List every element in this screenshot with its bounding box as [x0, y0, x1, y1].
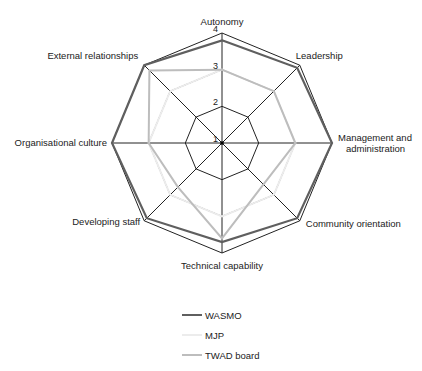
axis-label: Developing staff: [72, 216, 140, 227]
tick-label: 1: [213, 134, 218, 144]
legend-swatch-twad: [182, 354, 202, 356]
center-dot: [220, 141, 224, 145]
axis-spoke: [222, 65, 300, 143]
legend: WASMO MJP TWAD board: [182, 305, 260, 365]
axis-spoke: [144, 65, 222, 143]
legend-label: TWAD board: [205, 350, 260, 361]
axis-label: Technical capability: [181, 260, 263, 271]
legend-label: WASMO: [205, 310, 242, 321]
radar-chart: 1234 AutonomyLeadershipManagement andadm…: [0, 0, 422, 300]
legend-item-wasmo: WASMO: [182, 305, 260, 325]
axis-label: Autonomy: [201, 16, 244, 27]
axis-label: External relationships: [47, 50, 138, 61]
legend-item-twad: TWAD board: [182, 345, 260, 365]
axis-label: Organisational culture: [15, 137, 107, 148]
tick-label: 2: [213, 97, 218, 107]
legend-item-mjp: MJP: [182, 325, 260, 345]
axis-label: Community orientation: [306, 218, 401, 229]
legend-label: MJP: [205, 330, 224, 341]
axis-label: Management andadministration: [338, 132, 412, 154]
legend-swatch-mjp: [182, 334, 202, 336]
legend-swatch-wasmo: [182, 314, 202, 317]
axis-spoke: [222, 143, 300, 221]
axis-label: Leadership: [296, 50, 343, 61]
tick-label: 3: [213, 61, 218, 71]
